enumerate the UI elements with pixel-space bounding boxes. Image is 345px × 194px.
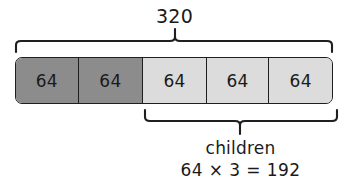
children-equation: 64 × 3 = 192: [144, 159, 337, 182]
bar-cell-2-value: 64: [99, 71, 121, 91]
bar-model-figure: 320 64 64 64 64 64 children 64 × 3 = 192: [0, 0, 345, 194]
children-caption: children 64 × 3 = 192: [144, 137, 337, 182]
total-label: 320: [0, 5, 345, 28]
bar-cell-3: 64: [143, 58, 207, 103]
children-bracket: [145, 110, 337, 134]
bar-cell-4-value: 64: [226, 71, 248, 91]
bar-cell-5: 64: [269, 58, 332, 103]
bar-cell-3-value: 64: [163, 71, 185, 91]
bar-cell-1: 64: [16, 58, 79, 103]
bar-cell-1-value: 64: [36, 71, 58, 91]
children-label: children: [144, 137, 337, 159]
bar-cell-4: 64: [207, 58, 270, 103]
bar-cell-5-value: 64: [290, 71, 312, 91]
total-label-text: 320: [156, 5, 193, 27]
bar-cell-2: 64: [79, 58, 144, 103]
total-bracket: [16, 29, 332, 52]
bar-model-strip: 64 64 64 64 64: [15, 57, 333, 104]
